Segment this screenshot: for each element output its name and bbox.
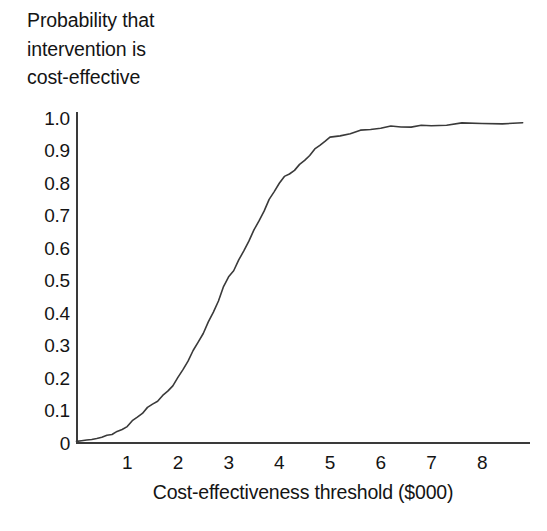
x-tick-label-2: 2 <box>158 452 198 474</box>
x-tick-label-1: 1 <box>107 452 147 474</box>
x-axis-title: Cost-effectiveness threshold ($000) <box>76 481 530 504</box>
x-tick-label-4: 4 <box>259 452 299 474</box>
x-tick-label-3: 3 <box>209 452 249 474</box>
x-tick-label-8: 8 <box>462 452 502 474</box>
x-axis-tick-labels: 12345678 <box>0 0 547 531</box>
x-tick-label-5: 5 <box>310 452 350 474</box>
figure-canvas: Probability thatintervention iscost-effe… <box>0 0 547 531</box>
x-tick-label-6: 6 <box>361 452 401 474</box>
x-tick-label-7: 7 <box>411 452 451 474</box>
